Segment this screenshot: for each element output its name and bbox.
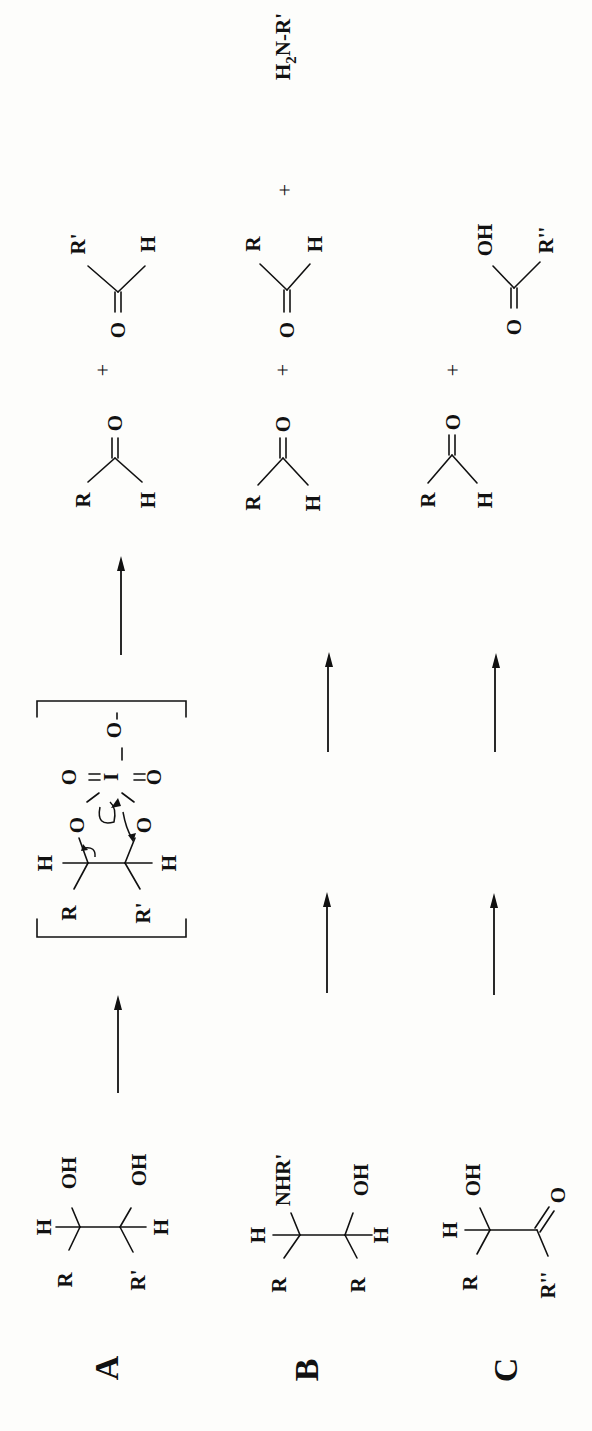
row-a: H R OH R' OH H H R H R' [32, 234, 186, 1291]
row-b: H R NHR' R OH H O R H + [241, 13, 393, 1293]
bond-line [345, 1213, 353, 1235]
intermediate-a-periodate-ester: H R H R' O O I O O O [33, 701, 186, 937]
bond-line [69, 1227, 80, 1250]
atom-label: O [57, 769, 81, 785]
row-label-b: B [288, 1359, 325, 1382]
atom-label: R [346, 1277, 370, 1293]
bond-line [37, 701, 186, 717]
atom-label: O [102, 722, 126, 738]
atom-label: H [157, 855, 181, 871]
atom-label: H [438, 1222, 462, 1238]
reactant-c-hydroxy-ketone: H R OH R'' O [438, 1164, 570, 1299]
bond-line [260, 264, 287, 290]
arrow-c-1 [490, 893, 498, 995]
curly-arrow-3 [123, 812, 132, 838]
atom-label: O [502, 319, 526, 335]
product-b-aldehyde-1: O R H [241, 416, 325, 511]
atom-label: R' [126, 1270, 150, 1291]
bond-line [87, 793, 99, 802]
arrowhead [492, 653, 500, 668]
atom-label: O [65, 817, 89, 833]
atom-label: R [71, 492, 95, 508]
atom-label: H [301, 495, 325, 511]
plus-a: + [90, 364, 115, 376]
bond-line [125, 863, 140, 889]
bond-line [88, 266, 118, 292]
bond-line [284, 1235, 300, 1258]
arrowhead [117, 556, 125, 571]
arrowhead [490, 893, 498, 908]
atom-label: R [57, 905, 81, 921]
row-label-c: C [487, 1358, 524, 1383]
bond-line [514, 262, 540, 288]
bond-line [115, 458, 142, 482]
atom-label: O [271, 416, 295, 432]
atom-label: I [99, 773, 123, 781]
arrow-c-2 [492, 653, 500, 752]
amine-formula: H2N-R' [271, 13, 299, 80]
atom-label: R [241, 495, 265, 511]
bond-line [477, 1230, 490, 1254]
atom-label: O [546, 1187, 570, 1203]
atom-label: OH [349, 1164, 373, 1197]
bond-line [537, 1230, 548, 1256]
bond-line [540, 1211, 554, 1232]
arrow-b-1 [323, 892, 331, 993]
atom-label: OH [57, 1157, 81, 1190]
atom-label: R' [66, 234, 90, 255]
atom-label: R'' [534, 227, 558, 254]
bond-line [120, 1208, 131, 1227]
plus-b-1: + [270, 364, 295, 376]
bond-line [345, 1235, 357, 1258]
bond-line [120, 1227, 133, 1252]
atom-label: R [416, 492, 440, 508]
arrowhead [114, 995, 122, 1010]
atom-label: H [136, 492, 160, 508]
atom-label: H [246, 1227, 270, 1243]
row-label-a: A [88, 1355, 125, 1380]
atom-label: OH [473, 224, 497, 257]
atom-label: H [32, 1219, 56, 1235]
bond-line [72, 1208, 80, 1227]
bond-line [428, 455, 452, 483]
arrow-a-2 [117, 556, 125, 655]
row-c: H R OH R'' O O R H + [416, 224, 570, 1299]
atom-label: NHR' [271, 1154, 295, 1207]
atom-label: R [267, 1277, 291, 1293]
arrow-a-1 [114, 995, 122, 1093]
bond-line [74, 863, 88, 889]
atom-label: H [369, 1227, 393, 1243]
atom-label: H [473, 492, 497, 508]
reactant-a-diol: H R OH R' OH H [32, 1154, 173, 1291]
bond-line [452, 455, 477, 483]
atom-label: R [241, 236, 265, 252]
bond-line [291, 1213, 300, 1235]
product-b-aldehyde-2: O R H [241, 236, 327, 339]
atom-label: H [33, 855, 57, 871]
product-a-aldehyde-1: O R H [71, 415, 160, 508]
atom-label: H [149, 1219, 173, 1235]
atom-label: R [458, 1275, 482, 1291]
bond-line [535, 1207, 549, 1228]
reaction-scheme: A B C H R OH R' OH H [0, 0, 592, 1431]
atom-label: R [53, 1272, 77, 1288]
bond-line [258, 458, 283, 485]
atom-label: H [303, 236, 327, 252]
bond-line [88, 458, 115, 482]
arrow-b-2 [325, 652, 333, 752]
atom-label: O [103, 415, 127, 431]
atom-label: H [136, 236, 160, 252]
atom-label: R'' [536, 1272, 560, 1299]
arrowhead [111, 798, 121, 808]
bond-line [480, 1208, 490, 1230]
product-b-amine: H2N-R' [271, 13, 299, 80]
bond-line [283, 458, 308, 485]
bond-line [118, 266, 145, 292]
bond-line [125, 838, 135, 863]
row-labels: A B C [88, 1355, 524, 1382]
atom-label: O [106, 322, 130, 338]
product-c-aldehyde: O R H [416, 414, 497, 508]
arrowhead [325, 652, 333, 667]
bond-line [287, 264, 310, 290]
atom-label: O [441, 414, 465, 430]
